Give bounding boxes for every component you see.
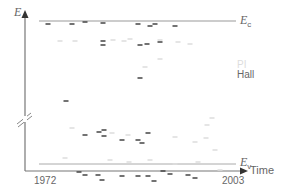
hall-level-dash <box>101 22 106 24</box>
hall-level-dash <box>136 175 141 177</box>
pi-level-dash <box>70 127 75 129</box>
hall-level-dash <box>152 180 157 182</box>
pi-level-dash <box>173 163 178 165</box>
pi-level-dash <box>213 149 218 151</box>
hall-level-dash <box>102 129 107 131</box>
hall-level-dash <box>120 139 125 141</box>
pi-levels <box>58 38 223 171</box>
hall-level-dash <box>70 23 75 25</box>
hall-level-dash <box>101 44 106 46</box>
y-axis-arrow-icon <box>22 10 29 18</box>
hall-level-dash <box>186 174 191 176</box>
pi-level-dash <box>110 132 115 134</box>
legend-hall: Hall <box>237 69 254 80</box>
pi-level-dash <box>205 124 210 126</box>
hall-level-dash <box>102 135 107 137</box>
hall-level-dash <box>136 139 141 141</box>
hall-level-dash <box>148 25 153 27</box>
pi-level-dash <box>173 136 178 138</box>
hall-level-dash <box>173 25 178 27</box>
y-axis-label-text: E <box>14 5 21 19</box>
hall-level-dash <box>100 179 105 181</box>
pi-level-dash <box>63 157 68 159</box>
ec-label-sub: c <box>247 20 251 29</box>
hall-level-dash <box>83 134 88 136</box>
pi-level-dash <box>193 141 198 143</box>
hall-level-dash <box>46 23 51 25</box>
hall-level-dash <box>193 177 198 179</box>
pi-level-dash <box>176 41 181 43</box>
hall-level-dash <box>138 44 143 46</box>
hall-level-dash <box>145 43 150 45</box>
pi-level-dash <box>196 161 201 163</box>
hall-level-dash <box>120 175 125 177</box>
x-tick-end: 2003 <box>222 175 244 186</box>
hall-level-dash <box>77 171 82 173</box>
pi-level-dash <box>126 134 131 136</box>
pi-level-dash <box>108 159 113 161</box>
pi-level-dash <box>111 39 116 41</box>
pi-level-dash <box>143 66 148 68</box>
pi-level-dash <box>158 58 163 60</box>
y-axis-label: E <box>14 5 21 20</box>
hall-level-dash <box>136 23 141 25</box>
hall-level-dash <box>146 175 151 177</box>
hall-levels <box>46 21 198 182</box>
pi-level-dash <box>148 159 153 161</box>
hall-level-dash <box>138 77 143 79</box>
ec-label: Ec <box>240 13 251 29</box>
hall-level-dash <box>140 142 145 144</box>
pi-level-dash <box>188 43 193 45</box>
hall-level-dash <box>161 170 166 172</box>
hall-level-dash <box>96 174 101 176</box>
hall-level-dash <box>83 21 88 23</box>
pi-level-dash <box>73 40 78 42</box>
pi-level-dash <box>127 161 132 163</box>
hall-level-dash <box>64 100 69 102</box>
hall-level-dash <box>168 173 173 175</box>
pi-level-dash <box>210 117 215 119</box>
hall-level-dash <box>101 40 106 42</box>
hall-level-dash <box>153 23 158 25</box>
pi-level-dash <box>204 137 209 139</box>
pi-level-dash <box>58 40 63 42</box>
hall-level-dash <box>83 174 88 176</box>
x-tick-start: 1972 <box>34 175 56 186</box>
pi-level-dash <box>128 38 133 40</box>
hall-level-dash <box>97 131 102 133</box>
pi-level-dash <box>158 39 163 41</box>
axis-break-gap <box>23 116 27 122</box>
hall-level-dash <box>158 41 163 43</box>
hall-level-dash <box>146 132 151 134</box>
pi-level-dash <box>218 169 223 171</box>
x-axis-label: Time <box>250 164 274 176</box>
pi-level-dash <box>122 40 127 42</box>
